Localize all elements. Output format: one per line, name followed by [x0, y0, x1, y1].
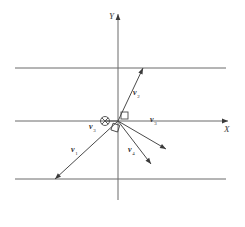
y-axis-label: Y: [109, 11, 115, 21]
vector-line-v3: [118, 121, 166, 149]
vector-label-v1: v1: [71, 145, 78, 156]
vector-labels-group: v1v2v3v4v3: [71, 88, 157, 156]
vector-label-v4: v4: [128, 145, 135, 156]
x-axis-label: X: [223, 124, 230, 134]
vector-label-subscript-v1: 1: [75, 151, 78, 156]
vector-line-v4: [118, 121, 151, 164]
vector-diagram-figure: Y X v1v2v3v4v3: [0, 0, 245, 227]
vector-arrowhead-v2: [138, 68, 143, 74]
vector-line-v1: [55, 121, 118, 179]
vector-diagram-canvas: Y X v1v2v3v4v3: [0, 0, 245, 227]
vector-label-v5: v3: [89, 122, 96, 133]
x-axis-arrowhead: [222, 119, 228, 124]
vector-label-subscript-v4: 4: [132, 151, 135, 156]
vector-arrowhead-v3: [160, 144, 166, 149]
vector-label-subscript-v5: 3: [93, 128, 96, 133]
vector-label-v3: v3: [150, 115, 157, 126]
y-axis-arrowhead: [116, 14, 121, 20]
vector-label-v2: v2: [133, 88, 140, 99]
vector-arrowhead-v4: [146, 158, 151, 164]
vector-label-subscript-v2: 2: [137, 94, 140, 99]
